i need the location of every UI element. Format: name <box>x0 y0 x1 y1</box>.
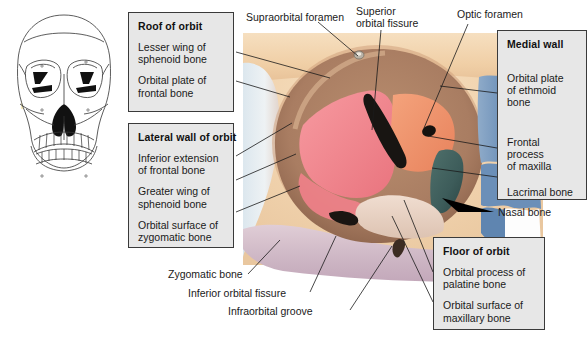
box-roof-of-orbit[interactable]: Roof of orbit Lesser wing of sphenoid bo… <box>128 12 234 112</box>
skull-inset-svg <box>4 12 124 187</box>
supraorbital-probe-pin <box>354 51 364 59</box>
label-zygomatic-bone: Zygomatic bone <box>168 268 243 280</box>
box-title-medial-wall: Medial wall <box>507 38 577 50</box>
label-superior-orbital-fissure: Superior orbital fissure <box>356 5 418 29</box>
label-infraorbital-groove: Infraorbital groove <box>228 305 313 317</box>
label-lacrimal-bone: Lacrimal bone <box>507 186 577 198</box>
box-title-roof-of-orbit: Roof of orbit <box>138 20 224 32</box>
label-lesser-wing-of-sphenoid-bone: Lesser wing of sphenoid bone <box>138 41 224 65</box>
label-frontal-process-of-maxilla: Frontal process of maxilla <box>507 136 577 173</box>
box-title-lateral-wall-of-orbit: Lateral wall of orbit <box>138 131 224 143</box>
label-nasal-bone: Nasal bone <box>498 206 551 218</box>
box-lateral-wall-of-orbit[interactable]: Lateral wall of orbit Inferior extension… <box>128 123 234 248</box>
label-supraorbital-foramen: Supraorbital foramen <box>246 11 344 23</box>
label-optic-foramen: Optic foramen <box>457 8 523 20</box>
label-orbital-plate-of-ethmoid-bone: Orbital plate of ethmoid bone <box>507 72 577 109</box>
label-orbital-surface-of-zygomatic-bone: Orbital surface of zygomatic bone <box>138 219 224 243</box>
label-inferior-orbital-fissure: Inferior orbital fissure <box>188 287 286 299</box>
box-title-floor-of-orbit: Floor of orbit <box>443 245 535 257</box>
label-orbital-surface-of-maxillary-bone: Orbital surface of maxillary bone <box>443 299 535 323</box>
label-inferior-extension-of-frontal-bone: Inferior extension of frontal bone <box>138 152 224 176</box>
label-orbital-plate-of-frontal-bone: Orbital plate of frontal bone <box>138 74 224 98</box>
skull-inset-diagram <box>4 12 124 187</box>
label-orbital-process-of-palatine-bone: Orbital process of palatine bone <box>443 266 535 290</box>
box-medial-wall[interactable]: Medial wall Orbital plate of ethmoid bon… <box>497 30 587 200</box>
label-greater-wing-of-sphenoid-bone: Greater wing of sphenoid bone <box>138 185 224 209</box>
figure-canvas: Roof of orbit Lesser wing of sphenoid bo… <box>0 0 588 339</box>
box-floor-of-orbit[interactable]: Floor of orbit Orbital process of palati… <box>433 237 545 330</box>
